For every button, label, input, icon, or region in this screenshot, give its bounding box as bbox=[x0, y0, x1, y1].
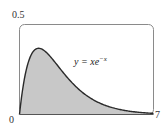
equation-exponent: −x bbox=[99, 55, 107, 63]
equation-text: y = xe bbox=[74, 56, 99, 67]
y-max-tick-label: 0.5 bbox=[12, 10, 25, 20]
x-min-tick-label: 0 bbox=[9, 115, 14, 125]
x-max-tick-label: 7 bbox=[155, 110, 160, 120]
function-annotation: y = xe−x bbox=[74, 56, 107, 67]
